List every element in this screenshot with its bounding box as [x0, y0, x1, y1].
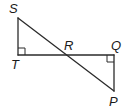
right-angle-marker-q — [107, 55, 114, 62]
geometry-diagram: S T R Q P — [0, 0, 126, 112]
label-t: T — [11, 57, 20, 72]
label-r: R — [64, 38, 73, 53]
label-p: P — [109, 94, 118, 109]
label-s: S — [9, 1, 18, 16]
right-angle-marker-t — [18, 48, 25, 55]
label-q: Q — [111, 38, 121, 53]
